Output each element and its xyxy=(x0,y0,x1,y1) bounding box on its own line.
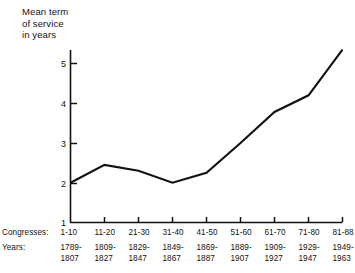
congress-cell: 1-10 xyxy=(61,228,78,237)
y-tick-label-2: 2 xyxy=(61,179,66,189)
years-end: 1927 xyxy=(265,254,286,265)
years-cell: 1829-1847 xyxy=(129,243,150,264)
years-start: 1789- xyxy=(61,243,82,254)
years-end: 1867 xyxy=(163,254,184,265)
years-end: 1907 xyxy=(231,254,252,265)
years-end: 1947 xyxy=(299,254,320,265)
years-start: 1929- xyxy=(299,243,320,254)
chart-container: Mean term of service in years 5 4 3 2 1 xyxy=(0,0,355,273)
congress-cell: 41-50 xyxy=(197,228,218,237)
years-start: 1949- xyxy=(333,243,354,254)
years-cell: 1809-1827 xyxy=(95,243,116,264)
years-cell: 1849-1867 xyxy=(163,243,184,264)
years-cell: 1909-1927 xyxy=(265,243,286,264)
years-start: 1909- xyxy=(265,243,286,254)
data-series-line xyxy=(71,50,343,183)
y-tick-label-5: 5 xyxy=(61,59,66,69)
congress-cell: 81-88 xyxy=(333,228,354,237)
congress-cell: 11-20 xyxy=(95,228,116,237)
congress-cell: 31-40 xyxy=(163,228,184,237)
years-start: 1889- xyxy=(231,243,252,254)
y-tick-label-4: 4 xyxy=(61,99,66,109)
congress-cell: 61-70 xyxy=(265,228,286,237)
congresses-row-label: Congresses: xyxy=(2,228,49,237)
years-end: 1807 xyxy=(61,254,82,265)
y-axis-ticks xyxy=(71,64,77,184)
years-end: 1827 xyxy=(95,254,116,265)
years-cell: 1949-1963 xyxy=(333,243,354,264)
years-start: 1849- xyxy=(163,243,184,254)
years-cell: 1889-1907 xyxy=(231,243,252,264)
congress-cell: 21-30 xyxy=(129,228,150,237)
y-tick-label-1: 1 xyxy=(61,218,66,228)
years-start: 1869- xyxy=(197,243,218,254)
years-cell: 1929-1947 xyxy=(299,243,320,264)
congress-cell: 71-80 xyxy=(299,228,320,237)
years-end: 1963 xyxy=(333,254,354,265)
years-cell: 1869-1887 xyxy=(197,243,218,264)
congress-cell: 51-60 xyxy=(231,228,252,237)
years-end: 1847 xyxy=(129,254,150,265)
x-axis-ticks xyxy=(105,217,343,222)
y-tick-label-3: 3 xyxy=(61,139,66,149)
years-end: 1887 xyxy=(197,254,218,265)
years-start: 1809- xyxy=(95,243,116,254)
years-start: 1829- xyxy=(129,243,150,254)
years-cell: 1789-1807 xyxy=(61,243,82,264)
years-row-label: Years: xyxy=(2,243,25,252)
